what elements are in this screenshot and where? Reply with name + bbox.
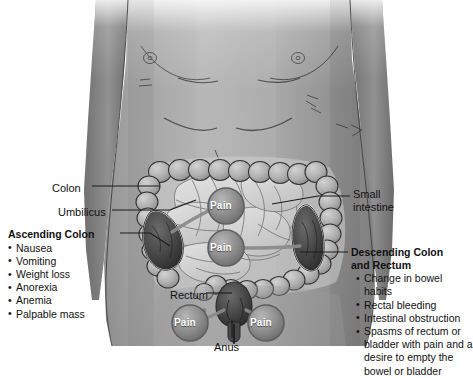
list-item-label: Weight loss (16, 268, 70, 280)
list-item: •Vomiting (8, 255, 143, 268)
pain-circle-lower-abdomen (208, 230, 244, 266)
bullet-icon: • (8, 268, 12, 281)
list-item-label: Nausea (16, 242, 52, 254)
list-item-label: Intestinal obstruction (364, 312, 460, 324)
list-item-label: Vomiting (16, 255, 56, 267)
list-item: •Anorexia (8, 281, 143, 294)
list-item: •Change in bowel habits (356, 272, 473, 298)
list-item: •Nausea (8, 242, 143, 255)
list-item: •Intestinal obstruction (356, 312, 473, 325)
bullet-icon: • (356, 311, 360, 324)
list-item: •Weight loss (8, 268, 143, 281)
panel-ascending-colon-list: •Nausea •Vomiting •Weight loss •Anorexia… (8, 242, 143, 321)
arrow-to-lower-pain (244, 246, 300, 248)
list-item-label: Change in bowel habits (364, 272, 442, 297)
bullet-icon: • (8, 254, 12, 267)
list-item: •Rectal bleeding (356, 299, 473, 312)
list-item-label: Anorexia (16, 281, 57, 293)
bullet-icon: • (8, 241, 12, 254)
label-small-intestine: Small intestine (353, 188, 413, 214)
list-item-label: Anemia (16, 294, 52, 306)
list-item-label: Palpable mass (16, 308, 85, 320)
label-rectum: Rectum (170, 289, 208, 302)
bullet-icon: • (356, 325, 360, 338)
bullet-icon: • (8, 281, 12, 294)
pain-circle-upper-abdomen (208, 188, 244, 224)
bullet-icon: • (356, 298, 360, 311)
list-item: •Anemia (8, 294, 143, 307)
bullet-icon: • (8, 294, 12, 307)
pain-circle-perineum-right (248, 305, 284, 341)
list-item: •Spasms of rectum or bladder with pain a… (356, 325, 473, 378)
panel-descending-colon-heading-line1: Descending Colon (351, 246, 473, 259)
panel-descending-colon-rectum: Descending Colon and Rectum •Change in b… (351, 246, 473, 378)
bullet-icon: • (356, 272, 360, 285)
panel-ascending-colon-heading: Ascending Colon (8, 228, 143, 241)
list-item-label: Rectal bleeding (364, 299, 436, 311)
label-colon: Colon (52, 182, 81, 195)
label-anus: Anus (214, 341, 239, 354)
panel-descending-colon-heading-line2: and Rectum (351, 259, 473, 272)
bullet-icon: • (8, 307, 12, 320)
list-item: •Palpable mass (8, 308, 143, 321)
panel-ascending-colon: Ascending Colon •Nausea •Vomiting •Weigh… (8, 228, 143, 321)
label-umbilicus: Umbilicus (58, 206, 106, 219)
panel-descending-colon-list: •Change in bowel habits •Rectal bleeding… (351, 272, 473, 378)
pain-circle-perineum-left (172, 305, 208, 341)
rectum-shape (216, 282, 252, 327)
list-item-label: Spasms of rectum or bladder with pain an… (364, 325, 473, 377)
